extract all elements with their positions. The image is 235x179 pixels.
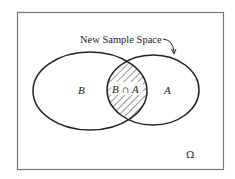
new-sample-space-label: New Sample Space — [80, 34, 162, 45]
intersection-label: B ∩ A — [112, 83, 139, 95]
omega-label: Ω — [186, 149, 194, 160]
set-a-label: A — [163, 84, 171, 96]
venn-diagram: B A B ∩ A New Sample Space Ω — [0, 0, 235, 179]
set-b-label: B — [78, 84, 85, 96]
